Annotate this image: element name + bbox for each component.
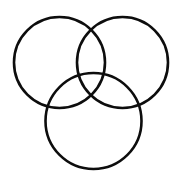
three-circle-venn-diagram xyxy=(0,0,182,175)
figure-background xyxy=(0,0,182,175)
figure-canvas xyxy=(0,0,182,175)
